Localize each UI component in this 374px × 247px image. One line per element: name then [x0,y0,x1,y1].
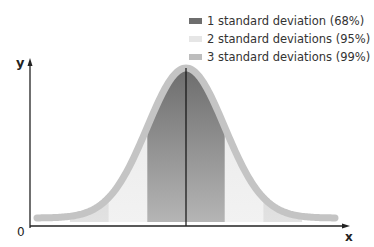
legend-item: 1 standard deviation (68%) [189,12,370,30]
y-axis-label: y [16,55,25,70]
legend-swatch-1sd [189,18,202,24]
legend-item: 3 standard deviations (99%) [189,48,370,66]
legend-swatch-3sd [189,54,202,60]
legend-label: 1 standard deviation (68%) [207,12,364,30]
origin-label: 0 [17,225,25,239]
legend-label: 3 standard deviations (99%) [207,48,370,66]
x-axis-label: x [345,230,353,244]
legend-label: 2 standard deviations (95%) [207,30,370,48]
x-axis-arrow [342,224,350,229]
legend-item: 2 standard deviations (95%) [189,30,370,48]
legend: 1 standard deviation (68%) 2 standard de… [189,12,370,66]
legend-swatch-2sd [189,36,202,42]
y-axis-arrow [28,58,33,66]
